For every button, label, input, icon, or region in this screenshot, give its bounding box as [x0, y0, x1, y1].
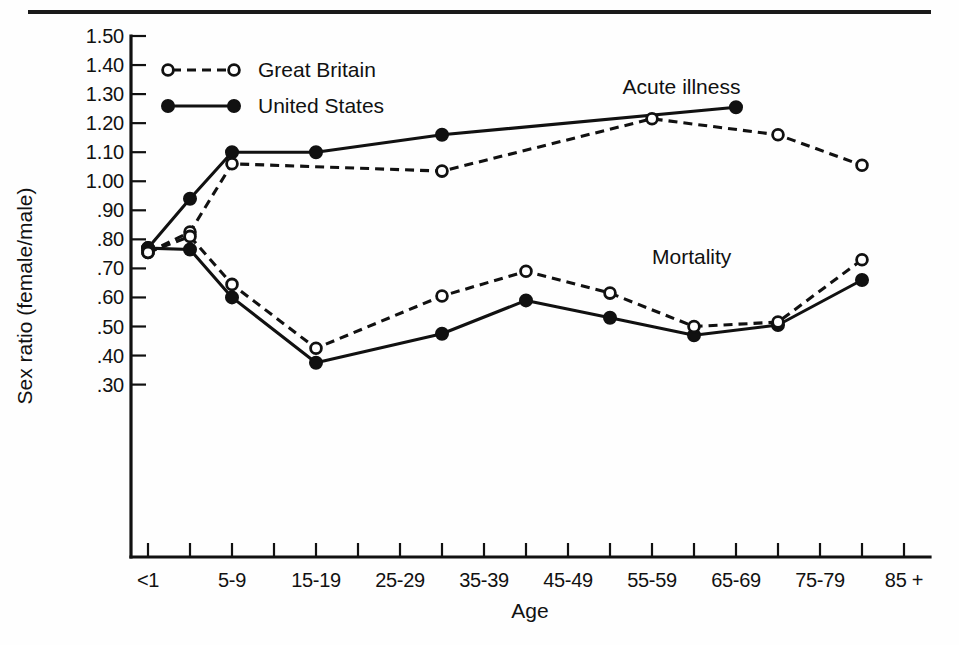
data-point-marker	[184, 193, 196, 205]
y-axis-ticks	[131, 36, 146, 385]
data-point-marker	[437, 166, 448, 177]
y-tick-label: .30	[97, 374, 124, 396]
y-tick-label: .40	[97, 345, 124, 367]
x-tick-label: 55-59	[627, 569, 677, 591]
y-tick-label: 1.20	[86, 112, 124, 134]
curve-annotation: Acute illness	[623, 75, 741, 98]
x-axis-title: Age	[511, 599, 548, 622]
legend-label: United States	[258, 94, 384, 117]
data-point-marker	[310, 357, 322, 369]
y-axis-group: 1.501.401.301.201.101.00.90.80.70.60.50.…	[13, 25, 146, 557]
y-tick-label: .80	[97, 228, 124, 250]
data-point-marker	[227, 158, 238, 169]
data-point-marker	[520, 294, 532, 306]
data-point-marker	[143, 247, 154, 258]
chart-legend: Great BritainUnited States	[162, 58, 384, 117]
curve-annotation: Mortality	[652, 245, 732, 268]
data-point-marker	[437, 291, 448, 302]
data-point-marker	[647, 113, 658, 124]
data-point-marker	[226, 146, 238, 158]
data-point-marker	[605, 288, 616, 299]
series-line	[148, 236, 862, 348]
data-point-marker	[521, 266, 532, 277]
data-point-marker	[773, 129, 784, 140]
series-line	[148, 119, 862, 253]
sex-ratio-line-chart: 1.501.401.301.201.101.00.90.80.70.60.50.…	[0, 0, 959, 645]
series-line	[148, 248, 862, 363]
y-tick-label: .60	[97, 286, 124, 308]
data-point-marker	[604, 312, 616, 324]
x-axis-tick-labels: <15-915-1925-2935-3945-4955-5965-6975-79…	[137, 569, 923, 591]
data-point-marker	[857, 160, 868, 171]
data-point-marker	[773, 317, 784, 328]
legend-marker	[162, 100, 174, 112]
y-tick-label: 1.10	[86, 141, 124, 163]
y-tick-label: .90	[97, 199, 124, 221]
y-tick-label: .50	[97, 316, 124, 338]
y-axis-tick-labels: 1.501.401.301.201.101.00.90.80.70.60.50.…	[86, 25, 124, 396]
x-tick-label: 25-29	[375, 569, 425, 591]
legend-label: Great Britain	[258, 58, 376, 81]
chart-annotations: Acute illnessMortality	[623, 75, 741, 268]
data-point-marker	[226, 291, 238, 303]
legend-marker	[229, 65, 240, 76]
x-tick-label: 75-79	[795, 569, 845, 591]
data-point-marker	[730, 101, 742, 113]
x-tick-label: 45-49	[543, 569, 593, 591]
data-point-marker	[184, 243, 196, 255]
y-tick-label: 1.00	[86, 170, 124, 192]
y-tick-label: 1.30	[86, 83, 124, 105]
legend-marker	[228, 100, 240, 112]
x-axis-ticks	[148, 543, 904, 557]
y-tick-label: .70	[97, 257, 124, 279]
data-point-marker	[856, 274, 868, 286]
data-point-marker	[227, 279, 238, 290]
chart-page: 1.501.401.301.201.101.00.90.80.70.60.50.…	[0, 0, 959, 645]
y-tick-label: 1.40	[86, 54, 124, 76]
y-axis-title: Sex ratio (female/male)	[13, 187, 36, 404]
x-tick-label: 85 +	[885, 569, 923, 591]
x-tick-label: 35-39	[459, 569, 509, 591]
data-point-marker	[689, 321, 700, 332]
x-tick-label: 5-9	[218, 569, 246, 591]
x-tick-label: <1	[137, 569, 159, 591]
data-point-marker	[857, 254, 868, 265]
y-tick-label: 1.50	[86, 25, 124, 47]
data-point-marker	[310, 146, 322, 158]
legend-marker	[163, 65, 174, 76]
series-lines-group	[148, 107, 862, 363]
x-tick-label: 15-19	[291, 569, 341, 591]
data-point-marker	[436, 328, 448, 340]
data-point-marker	[436, 129, 448, 141]
x-axis-group: <15-915-1925-2935-3945-4955-5965-6975-79…	[131, 543, 930, 622]
data-point-marker	[185, 231, 196, 242]
x-tick-label: 65-69	[711, 569, 761, 591]
data-point-marker	[311, 343, 322, 354]
